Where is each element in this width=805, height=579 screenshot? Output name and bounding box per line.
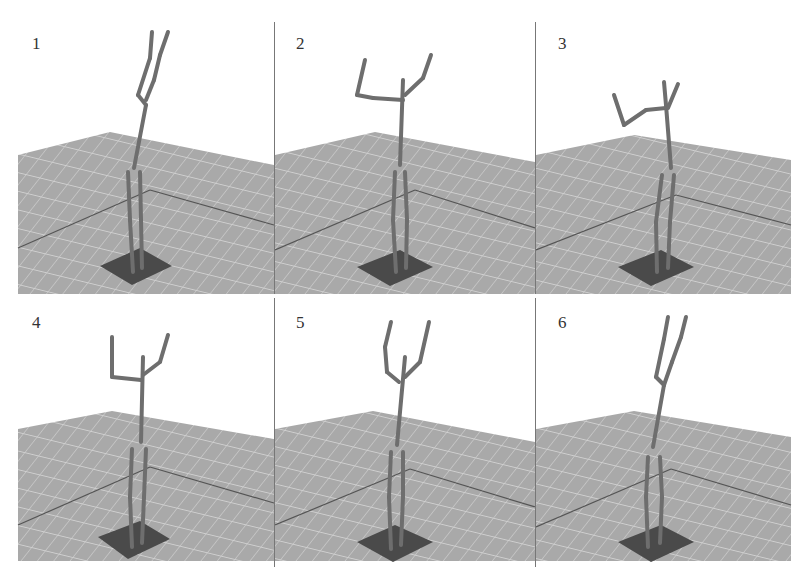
frame-panel-3: 3 bbox=[536, 0, 805, 294]
skeleton-scene-5 bbox=[275, 297, 535, 579]
skeleton-scene-4 bbox=[0, 297, 274, 579]
frame-label: 2 bbox=[296, 34, 305, 54]
horizontal-divider bbox=[0, 294, 805, 298]
frame-panel-2: 2 bbox=[275, 0, 535, 294]
frame-label: 3 bbox=[558, 34, 567, 54]
frame-label: 1 bbox=[32, 34, 41, 54]
frame-panel-5: 5 bbox=[275, 297, 535, 579]
frame-label: 5 bbox=[296, 313, 305, 333]
frame-label: 6 bbox=[558, 313, 567, 333]
skeleton-scene-2 bbox=[275, 0, 535, 294]
skeleton-scene-6 bbox=[536, 297, 805, 579]
frame-label: 4 bbox=[32, 313, 41, 333]
frame-panel-6: 6 bbox=[536, 297, 805, 579]
skeleton-scene-3 bbox=[536, 0, 805, 294]
frame-panel-1: 1 bbox=[0, 0, 274, 294]
animation-frames-grid: 1 2 bbox=[0, 0, 805, 579]
frame-panel-4: 4 bbox=[0, 297, 274, 579]
skeleton-scene-1 bbox=[0, 0, 274, 294]
